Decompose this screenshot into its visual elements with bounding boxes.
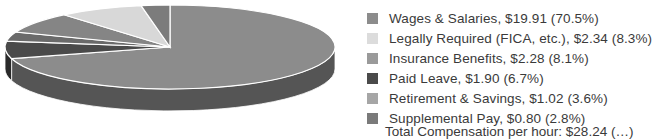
- legend-swatch-insurance: [367, 53, 378, 64]
- legend-item-wages: Wages & Salaries, $19.91 (70.5%): [367, 8, 652, 28]
- legend-label: Insurance Benefits, $2.28 (8.1%): [389, 51, 589, 66]
- legend-label: Legally Required (FICA, etc.), $2.34 (8.…: [389, 31, 652, 46]
- legend-label: Retirement & Savings, $1.02 (3.6%): [389, 91, 608, 106]
- legend-label: Wages & Salaries, $19.91 (70.5%): [389, 11, 599, 26]
- legend-swatch-supplemental: [367, 113, 378, 124]
- legend-swatch-legally-required: [367, 33, 378, 44]
- legend-item-paid-leave: Paid Leave, $1.90 (6.7%): [367, 68, 652, 88]
- legend-swatch-wages: [367, 13, 378, 24]
- legend-item-retirement: Retirement & Savings, $1.02 (3.6%): [367, 88, 652, 108]
- pie-chart-3d: [0, 0, 345, 134]
- total-compensation-label: Total Compensation per hour: $28.24 (…): [385, 124, 633, 139]
- legend-item-insurance: Insurance Benefits, $2.28 (8.1%): [367, 48, 652, 68]
- legend-label: Paid Leave, $1.90 (6.7%): [389, 71, 544, 86]
- legend-swatch-retirement: [367, 93, 378, 104]
- legend-item-legally-required: Legally Required (FICA, etc.), $2.34 (8.…: [367, 28, 652, 48]
- legend-swatch-paid-leave: [367, 73, 378, 84]
- chart-legend: Wages & Salaries, $19.91 (70.5%) Legally…: [367, 8, 652, 128]
